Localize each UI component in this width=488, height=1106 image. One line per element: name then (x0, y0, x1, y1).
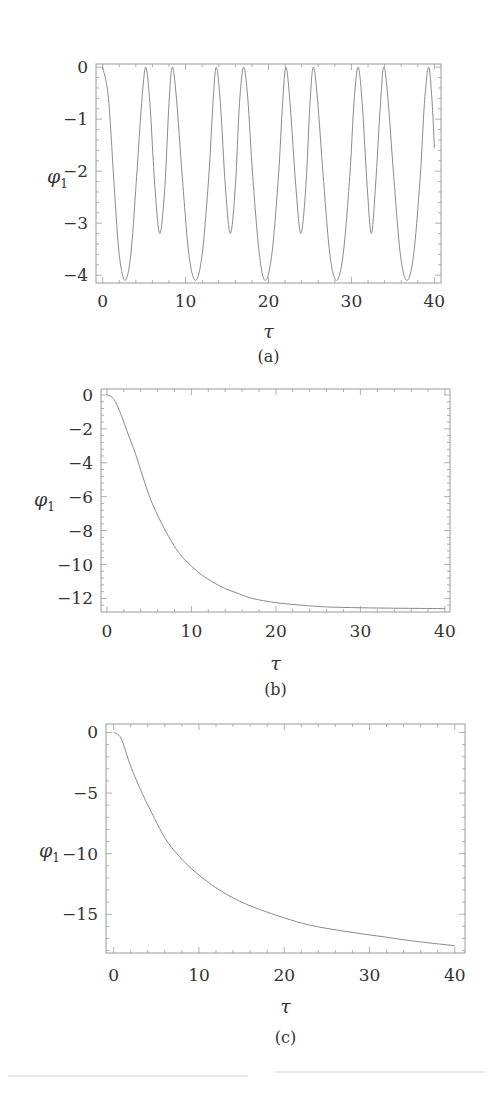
y-tick-label: −8 (68, 521, 93, 541)
x-tick-label: 10 (188, 965, 210, 985)
panel-caption: (c) (275, 1028, 296, 1047)
y-tick-label: 0 (87, 722, 98, 742)
y-tick-label: −1 (63, 109, 88, 129)
chart-b-plot: 0102030400−2−4−6−8−10−12φ1τ(b) (0, 365, 488, 710)
y-tick-label: −15 (62, 904, 98, 924)
y-tick-label: −2 (68, 419, 93, 439)
chart-c-plot: 0102030400−5−10−15φ1τ(c) (0, 710, 488, 1106)
chart-panel-a: 0102030400−1−2−3−4φ1τ(a) (0, 0, 488, 365)
x-tick-label: 30 (359, 965, 381, 985)
panel-caption: (b) (264, 680, 287, 699)
y-tick-label: 0 (77, 57, 88, 77)
y-tick-label: −6 (68, 487, 93, 507)
y-tick-label: 0 (82, 385, 93, 405)
plot-frame (96, 64, 441, 283)
y-tick-label: −10 (57, 555, 93, 575)
x-tick-label: 20 (258, 291, 280, 311)
chart-panel-c: 0102030400−5−10−15φ1τ(c) (0, 710, 488, 1106)
y-tick-label: −4 (68, 453, 93, 473)
x-tick-label: 10 (175, 291, 197, 311)
chart-panel-b: 0102030400−2−4−6−8−10−12φ1τ(b) (0, 365, 488, 710)
x-tick-label: 0 (102, 621, 113, 641)
x-tick-label: 20 (273, 965, 295, 985)
x-tick-label: 40 (434, 621, 456, 641)
x-tick-label: 10 (181, 621, 203, 641)
y-tick-label: −12 (57, 588, 93, 608)
x-tick-label: 20 (265, 621, 287, 641)
y-tick-label: −5 (73, 783, 98, 803)
y-tick-label: −10 (62, 844, 98, 864)
data-series-line (107, 395, 445, 609)
bleed-through-text-left (8, 1075, 248, 1077)
panel-caption: (a) (257, 347, 279, 365)
y-axis-label: φ1 (34, 488, 55, 514)
x-tick-label: 0 (108, 965, 119, 985)
x-tick-label: 30 (341, 291, 363, 311)
y-tick-label: −4 (63, 265, 88, 285)
plot-frame (101, 389, 450, 612)
data-series-line (114, 732, 455, 945)
chart-a-plot: 0102030400−1−2−3−4φ1τ(a) (0, 0, 488, 365)
x-axis-label: τ (263, 320, 274, 342)
y-tick-label: −3 (63, 213, 88, 233)
x-tick-label: 30 (350, 621, 372, 641)
x-axis-label: τ (280, 995, 291, 1017)
x-tick-label: 0 (97, 291, 108, 311)
y-axis-label: φ1 (39, 839, 60, 865)
x-tick-label: 40 (444, 965, 466, 985)
x-tick-label: 40 (424, 291, 446, 311)
x-axis-label: τ (270, 652, 281, 674)
bleed-through-text-right (275, 1071, 485, 1073)
data-series-line (103, 67, 435, 280)
